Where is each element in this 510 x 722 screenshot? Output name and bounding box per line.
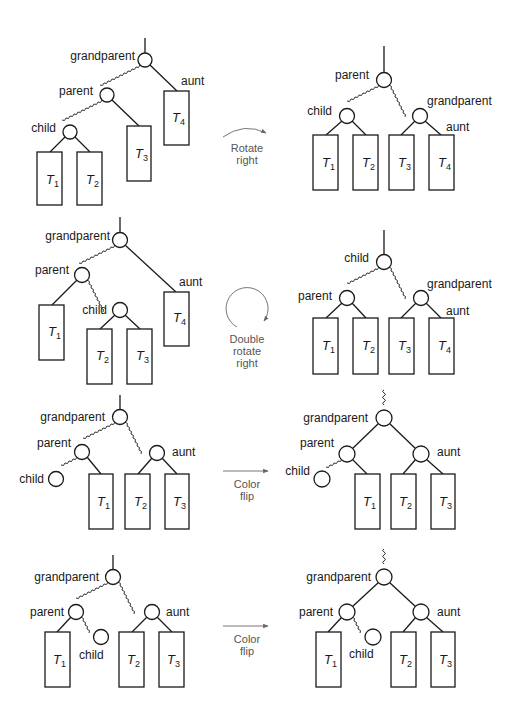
child-node [314, 471, 330, 487]
child-node [94, 630, 109, 645]
label-child: child [285, 464, 310, 478]
edge-aunt-t2 [403, 459, 416, 474]
edge-gp-t4 [426, 303, 441, 318]
red-link [326, 459, 342, 468]
edge-gp-parent [352, 423, 379, 449]
curved-arrow-icon [223, 128, 266, 137]
edge-child-t3 [125, 315, 140, 329]
tree-before-color-flip-1: grandparent parent child aunt T1 T2 T3 [19, 395, 196, 529]
red-link [352, 617, 361, 633]
child-node [340, 109, 355, 124]
aunt-node [413, 604, 429, 620]
label-parent: parent [59, 84, 94, 98]
label-aunt: aunt [446, 304, 470, 318]
edge-aunt-t3 [426, 459, 443, 474]
label-child: child [344, 251, 369, 265]
grandparent-node [113, 233, 128, 248]
rotate-right-transition: Rotate right [223, 128, 266, 166]
parent-node [75, 445, 90, 460]
label-grandparent: grandparent [303, 411, 368, 425]
child-node [113, 303, 128, 318]
red-link [389, 85, 406, 117]
label-aunt: aunt [181, 74, 205, 88]
grandparent-node [376, 410, 392, 426]
label-grandparent: grandparent [40, 410, 105, 424]
edge-parent-t1 [326, 303, 342, 318]
red-link [383, 390, 386, 405]
tree-after-double-rotate: child parent grandparent aunt T1 T2 T3 T… [298, 230, 492, 374]
edge-child-t2 [352, 121, 366, 135]
label-parent: parent [335, 68, 370, 82]
label-grandparent: grandparent [427, 277, 492, 291]
label-grandparent: grandparent [306, 570, 371, 584]
red-link [125, 422, 142, 454]
edge-parent-t1 [352, 459, 367, 474]
grandparent-node [106, 570, 121, 585]
edge-aunt-t2 [403, 617, 416, 632]
red-link [76, 582, 108, 599]
double-rotate-label-line1: Double [230, 333, 265, 345]
label-parent: parent [37, 436, 72, 450]
double-rotate-label-line3: right [236, 357, 257, 369]
grandparent-node [376, 569, 392, 585]
edge-parent-t1 [52, 280, 77, 305]
edge-aunt-t2 [132, 617, 147, 632]
edge-child-t2 [100, 315, 115, 329]
child-node [365, 629, 381, 645]
label-aunt: aunt [166, 605, 190, 619]
row-color-flip-inner: grandparent parent child aunt T1 T2 T3 C… [30, 549, 461, 687]
aunt-node [150, 446, 165, 461]
label-parent: parent [299, 605, 334, 619]
edge-gp-parent [352, 582, 379, 607]
label-grandparent: grandparent [34, 570, 99, 584]
aunt-node [145, 605, 160, 620]
rotate-right-label-line2: right [236, 154, 257, 166]
label-child: child [79, 648, 104, 662]
circular-arrow-icon [226, 288, 268, 327]
edge-parent-t1 [57, 617, 71, 632]
color-flip-2-label-line2: flip [240, 645, 254, 657]
tree-before-double-rotate: grandparent parent child aunt T1 T2 T3 T… [35, 217, 203, 384]
grandparent-node [138, 53, 152, 67]
edge-gp-aunt [150, 65, 177, 91]
rotate-right-label-line1: Rotate [231, 142, 263, 154]
label-aunt: aunt [446, 120, 470, 134]
edge-aunt-t3 [162, 458, 177, 474]
edge-parent-t3 [112, 100, 139, 126]
red-black-tree-diagram: grandparent parent child aunt T1 T2 T3 T… [0, 0, 510, 722]
color-flip-1-label-line1: Color [234, 478, 261, 490]
red-link [347, 267, 379, 284]
parent-node [339, 604, 355, 620]
tree-after-color-flip-1: grandparent parent child aunt T1 T2 T3 [285, 390, 461, 529]
parent-node [69, 605, 84, 620]
label-parent: parent [298, 289, 333, 303]
red-link [100, 65, 140, 86]
parent-node [75, 268, 90, 283]
grandparent-node [113, 410, 128, 425]
red-link [81, 617, 90, 633]
parent-node [377, 73, 392, 88]
child-node [377, 255, 392, 270]
color-flip-2-label-line1: Color [234, 633, 261, 645]
label-child: child [19, 472, 44, 486]
label-aunt: aunt [437, 605, 461, 619]
parent-node [100, 88, 114, 102]
edge-child-t1 [50, 137, 65, 152]
tree-before-rotate: grandparent parent child aunt T1 T2 T3 T… [31, 38, 205, 205]
edge-gp-aunt [389, 582, 416, 607]
label-child: child [31, 121, 56, 135]
tree-after-rotate: parent child grandparent aunt T1 T2 T3 T… [307, 46, 492, 190]
label-parent: parent [35, 263, 70, 277]
edge-gp-aunt [389, 423, 416, 449]
color-flip-transition-2: Color flip [223, 626, 268, 657]
label-grandparent: grandparent [70, 49, 135, 63]
child-node [49, 472, 64, 487]
label-child: child [307, 104, 332, 118]
red-link [347, 85, 379, 102]
row-color-flip-outer: grandparent parent child aunt T1 T2 T3 C… [19, 390, 461, 529]
label-child: child [82, 303, 107, 317]
red-link [389, 267, 406, 299]
edge-parent-t1 [328, 617, 342, 632]
edge-gp-aunt [125, 245, 176, 292]
color-flip-transition-1: Color flip [223, 471, 268, 502]
